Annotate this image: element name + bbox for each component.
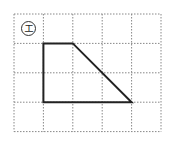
figure-label: エ (21, 21, 36, 36)
